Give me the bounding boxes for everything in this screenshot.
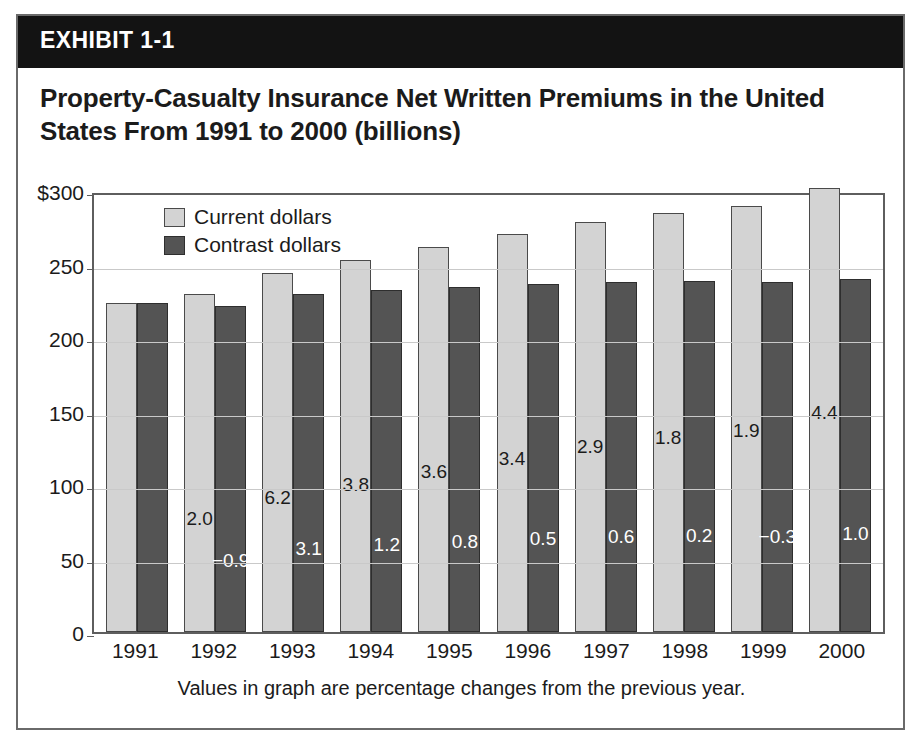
bar-value-label: 0.6 xyxy=(608,526,634,548)
exhibit-panel: EXHIBIT 1-1 Property-Casualty Insurance … xyxy=(16,14,905,730)
bar-group: 3.60.8 xyxy=(418,195,480,632)
bar-value-label: 0.2 xyxy=(686,525,712,547)
exhibit-header-band: EXHIBIT 1-1 xyxy=(18,16,903,68)
bar-value-label: 1.9 xyxy=(733,420,759,442)
y-axis-tick-label: $300 xyxy=(37,181,84,205)
bar-value-label: 3.6 xyxy=(421,461,447,483)
bar-value-label: 4.4 xyxy=(811,402,837,424)
y-axis-labels: $300250200150100500 xyxy=(34,193,84,634)
gridline xyxy=(94,563,883,564)
bar-group: 3.40.5 xyxy=(497,195,559,632)
x-axis-tick-label: 1995 xyxy=(418,639,480,663)
bar-group: 3.81.2 xyxy=(340,195,402,632)
bar-value-label: 1.2 xyxy=(374,534,400,556)
bar-contrast-1994: 1.2 xyxy=(371,290,402,633)
x-axis-labels: 1991199219931994199519961997199819992000 xyxy=(92,639,885,663)
bar-current-1998: 1.8 xyxy=(653,213,684,632)
bar-value-label: 3.1 xyxy=(296,538,322,560)
plot-region: Current dollars Contrast dollars 2.0−0.9… xyxy=(92,193,885,634)
bar-contrast-1997: 0.6 xyxy=(606,282,637,632)
gridline xyxy=(94,342,883,343)
bar-value-label: 2.9 xyxy=(577,436,603,458)
chart-area: $300250200150100500 Current dollars Cont… xyxy=(34,193,889,683)
x-axis-tick-label: 1991 xyxy=(104,639,166,663)
x-axis-tick-label: 1998 xyxy=(654,639,716,663)
bar-contrast-1991 xyxy=(137,303,168,632)
x-axis-tick-label: 1999 xyxy=(732,639,794,663)
bar-contrast-1999: −0.3 xyxy=(762,282,793,632)
bar-current-1991 xyxy=(106,303,137,632)
bar-value-label: 0.5 xyxy=(530,528,556,550)
bar-current-1996: 3.4 xyxy=(497,234,528,632)
y-axis-tick xyxy=(87,195,94,196)
y-axis-tick xyxy=(87,636,94,637)
bar-value-label: 3.8 xyxy=(343,474,369,496)
y-axis-tick-label: 100 xyxy=(49,475,84,499)
bar-group xyxy=(106,195,168,632)
bar-value-label: 0.8 xyxy=(452,531,478,553)
bar-group: 4.41.0 xyxy=(809,195,871,632)
y-axis-tick-label: 200 xyxy=(49,328,84,352)
bar-group: 6.23.1 xyxy=(262,195,324,632)
y-axis-tick-label: 250 xyxy=(49,255,84,279)
gridline xyxy=(94,269,883,270)
y-axis-tick xyxy=(87,489,94,490)
y-axis-tick xyxy=(87,269,94,270)
x-axis-tick-label: 1993 xyxy=(261,639,323,663)
y-axis-tick xyxy=(87,342,94,343)
bar-value-label: 1.0 xyxy=(842,523,868,545)
chart-footnote: Values in graph are percentage changes f… xyxy=(34,677,889,700)
gridline xyxy=(94,489,883,490)
bar-contrast-1998: 0.2 xyxy=(684,281,715,632)
bar-group: 1.80.2 xyxy=(653,195,715,632)
bar-value-label: 1.8 xyxy=(655,427,681,449)
bar-current-1992: 2.0 xyxy=(184,294,215,632)
bar-contrast-2000: 1.0 xyxy=(840,279,871,632)
bar-value-label: −0.3 xyxy=(759,526,797,548)
bar-current-2000: 4.4 xyxy=(809,188,840,632)
bar-group: 1.9−0.3 xyxy=(731,195,793,632)
bar-value-label: 6.2 xyxy=(265,487,291,509)
bar-value-label: 3.4 xyxy=(499,448,525,470)
x-axis-tick-label: 1996 xyxy=(497,639,559,663)
exhibit-number-label: EXHIBIT 1-1 xyxy=(40,27,175,54)
y-axis-tick xyxy=(87,416,94,417)
bar-groups: 2.0−0.96.23.13.81.23.60.83.40.52.90.61.8… xyxy=(94,195,883,632)
page-title: Property-Casualty Insurance Net Written … xyxy=(40,82,880,149)
bar-current-1994: 3.8 xyxy=(340,260,371,632)
x-axis-tick-label: 1994 xyxy=(340,639,402,663)
bar-contrast-1993: 3.1 xyxy=(293,294,324,632)
bar-contrast-1992: −0.9 xyxy=(215,306,246,632)
x-axis-tick-label: 1997 xyxy=(575,639,637,663)
gridline xyxy=(94,416,883,417)
y-axis-tick-label: 50 xyxy=(61,549,84,573)
bar-group: 2.0−0.9 xyxy=(184,195,246,632)
bar-current-1993: 6.2 xyxy=(262,273,293,632)
bar-current-1995: 3.6 xyxy=(418,247,449,632)
bar-current-1997: 2.9 xyxy=(575,222,606,632)
x-axis-tick-label: 1992 xyxy=(183,639,245,663)
y-axis-tick-label: 150 xyxy=(49,402,84,426)
bar-value-label: 2.0 xyxy=(186,508,212,530)
bar-group: 2.90.6 xyxy=(575,195,637,632)
y-axis-tick-label: 0 xyxy=(72,622,84,646)
bar-current-1999: 1.9 xyxy=(731,206,762,632)
y-axis-tick xyxy=(87,563,94,564)
bar-value-label: −0.9 xyxy=(212,550,250,572)
bar-contrast-1995: 0.8 xyxy=(449,287,480,632)
x-axis-tick-label: 2000 xyxy=(811,639,873,663)
bar-contrast-1996: 0.5 xyxy=(528,284,559,632)
